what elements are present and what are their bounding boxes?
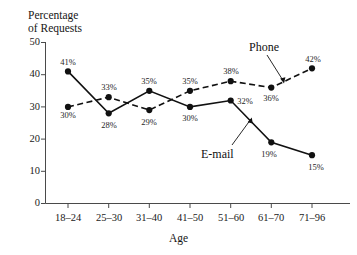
data-label-phone-71-96: 42%	[298, 54, 328, 64]
data-label-email-61-70: 19%	[254, 149, 284, 159]
y-axis-ticks	[41, 43, 46, 204]
data-label-phone-51-60: 38%	[216, 66, 246, 76]
data-label-phone-61-70: 36%	[256, 93, 286, 103]
email-annotation-leader-line	[232, 119, 251, 145]
data-label-email-31-40: 35%	[134, 76, 164, 86]
data-label-email-18-24: 41%	[53, 57, 83, 67]
data-label-email-71-96: 15%	[301, 162, 331, 172]
data-label-email-25-30: 28%	[94, 120, 124, 130]
line-chart: Percentage of Requests 50 40 30 20 10 0 …	[0, 0, 357, 255]
x-axis-ticks	[68, 204, 312, 209]
plot-area	[0, 0, 357, 255]
series-annotation-email: E-mail	[201, 147, 234, 162]
phone-annotation-leader-line	[267, 55, 284, 82]
data-label-phone-41-50: 35%	[175, 76, 205, 86]
series-annotation-phone: Phone	[249, 40, 279, 55]
data-label-email-41-50: 30%	[175, 113, 205, 123]
data-label-phone-25-30: 33%	[94, 82, 124, 92]
data-label-phone-18-24: 30%	[53, 110, 83, 120]
data-label-phone-31-40: 29%	[134, 117, 164, 127]
